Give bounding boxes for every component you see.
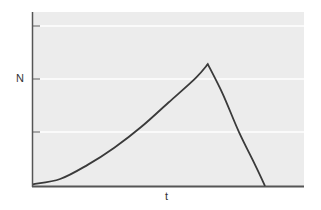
y-axis-label: N <box>16 72 24 84</box>
plot-background <box>33 12 304 186</box>
chart-canvas <box>0 0 321 210</box>
x-axis-label: t <box>165 190 168 202</box>
